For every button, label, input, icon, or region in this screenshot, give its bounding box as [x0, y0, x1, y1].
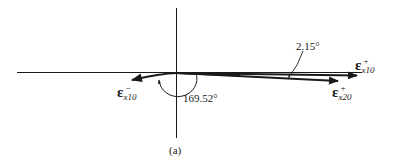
vector-eps-x10-minus [132, 73, 177, 80]
label-eps-x10-minus: ε−x10 [117, 85, 123, 100]
eps-sub: x10 [361, 66, 374, 75]
label-eps-x10-plus: ε+x10 [355, 58, 361, 73]
angle-leader-small [289, 51, 303, 77]
label-angle-small: 2.15° [296, 41, 320, 52]
label-eps-x20-plus: ε+x20 [332, 85, 338, 100]
eps-sub: x20 [338, 93, 351, 102]
figure-caption: (a) [169, 145, 181, 156]
eps-sub: x10 [123, 93, 136, 102]
vector-diagram [0, 0, 397, 166]
label-angle-large: 169.52° [183, 93, 218, 104]
